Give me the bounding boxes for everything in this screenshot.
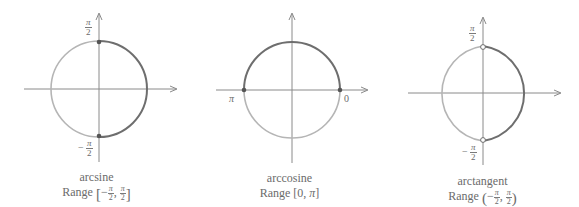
range-label: Range (−π2, π2) [386, 189, 579, 206]
arctangent-caption: arctangent Range (−π2, π2) [386, 174, 579, 206]
function-name: arctangent [386, 174, 579, 188]
label-neg-pi-over-2: − π 2 [86, 139, 93, 158]
function-name: arccosine [193, 171, 386, 185]
right-endpoint-closed [338, 88, 343, 93]
arccosine-panel: π 0 arccosine Range [0, π] [193, 0, 386, 207]
label-pi-over-2: π 2 [469, 24, 476, 43]
bottom-endpoint-closed [97, 134, 102, 139]
left-endpoint-closed [242, 88, 247, 93]
function-name: arcsine [0, 170, 193, 184]
arctangent-panel: π 2 − π 2 arctangent Range (−π2, π2) [386, 0, 579, 207]
range-label: Range [−π2, π2] [0, 185, 193, 202]
label-pi: π [229, 93, 234, 104]
label-neg-pi-over-2: − π 2 [470, 143, 477, 162]
arcsine-panel: π 2 − π 2 arcsine Range [−π2, π2] [0, 0, 193, 207]
label-pi-over-2: π 2 [85, 18, 92, 37]
top-endpoint-open [481, 45, 486, 50]
bottom-endpoint-open [481, 138, 486, 143]
range-label: Range [0, π] [193, 186, 386, 200]
label-zero: 0 [344, 93, 349, 104]
top-endpoint-closed [97, 40, 102, 45]
arcsine-caption: arcsine Range [−π2, π2] [0, 170, 193, 202]
arccosine-caption: arccosine Range [0, π] [193, 171, 386, 200]
